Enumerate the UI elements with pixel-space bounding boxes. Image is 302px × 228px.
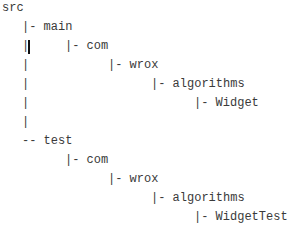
text-cursor (28, 40, 30, 54)
node-main-com: |- com (65, 39, 108, 53)
node-widget: |- Widget (194, 96, 259, 110)
node-widgettest: |- WidgetTest (194, 210, 288, 224)
node-main: |- main (22, 20, 72, 34)
node-main-algorithms: |- algorithms (151, 77, 245, 91)
tree-connector: | (22, 77, 29, 91)
tree-connector: | (22, 115, 29, 129)
node-test: -- test (22, 134, 72, 148)
tree-connector: | (22, 58, 29, 72)
tree-connector: | (22, 96, 29, 110)
node-test-com: |- com (65, 153, 108, 167)
node-test-wrox: |- wrox (108, 172, 158, 186)
node-main-wrox: |- wrox (108, 58, 158, 72)
directory-tree: src |- main | |- com | |- wrox | |- algo… (0, 0, 302, 228)
node-test-algorithms: |- algorithms (151, 191, 245, 205)
node-src: src (2, 1, 24, 15)
